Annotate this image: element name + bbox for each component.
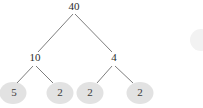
- edge-4-2-left: [97, 66, 112, 83]
- internal-node-label-4: 4: [108, 52, 120, 63]
- edge-10-5: [17, 66, 33, 83]
- internal-node-label-10: 10: [27, 52, 43, 63]
- edge-40-10: [38, 14, 73, 52]
- leaf-node-label-2-a: 2: [54, 87, 66, 98]
- edge-10-2: [36, 66, 53, 83]
- leaf-node-label-2-b: 2: [84, 87, 96, 98]
- cut-off-ellipse: [190, 29, 203, 51]
- factor-tree-diagram: 40 10 4 5 2 2 2: [0, 0, 203, 108]
- leaf-node-label-5: 5: [8, 87, 20, 98]
- root-node-label: 40: [66, 1, 82, 12]
- edge-4-2-right: [115, 66, 133, 83]
- edge-40-4: [75, 14, 112, 52]
- leaf-node-label-2-c: 2: [134, 87, 146, 98]
